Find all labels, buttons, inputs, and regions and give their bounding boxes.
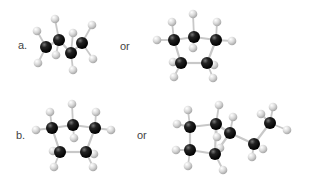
hydrogen-atom xyxy=(70,134,79,143)
label-or-a: or xyxy=(120,41,130,52)
hydrogen-atom xyxy=(209,74,218,83)
hydrogen-atom xyxy=(68,100,77,109)
molecule-diagram: a. or b. or xyxy=(0,0,317,188)
hydrogen-atom xyxy=(168,18,177,27)
carbon-atom xyxy=(175,57,187,69)
carbon-atom xyxy=(54,146,66,158)
hydrogen-atom xyxy=(219,166,228,175)
hydrogen-atom xyxy=(257,110,266,119)
hydrogen-atom xyxy=(33,27,42,36)
hydrogen-atom xyxy=(52,51,61,60)
hydrogen-atom xyxy=(173,120,182,129)
carbon-atom xyxy=(46,122,58,134)
hydrogen-atom xyxy=(51,15,60,24)
molecule-canvas xyxy=(0,0,317,188)
hydrogen-atom xyxy=(269,103,278,112)
hydrogen-atom xyxy=(184,106,193,115)
carbon-atom xyxy=(248,138,260,150)
hydrogen-atom xyxy=(229,113,238,122)
carbon-atom xyxy=(40,41,52,53)
hydrogen-atom xyxy=(69,29,78,38)
hydrogen-atom xyxy=(69,66,78,75)
hydrogen-atom xyxy=(189,44,198,53)
hydrogen-atom xyxy=(189,10,198,19)
carbon-atom xyxy=(184,121,196,133)
hydrogen-atom xyxy=(283,126,292,135)
hydrogen-atom xyxy=(172,146,181,155)
carbon-atom xyxy=(224,127,236,139)
carbon-atom xyxy=(53,34,65,46)
carbon-atom xyxy=(209,148,221,160)
label-b: b. xyxy=(16,130,25,141)
carbon-atom xyxy=(188,31,200,43)
hydrogen-atom xyxy=(259,145,268,154)
hydrogen-atom xyxy=(46,108,55,117)
hydrogen-atom xyxy=(213,133,222,142)
hydrogen-atom xyxy=(32,126,41,135)
hydrogen-atom xyxy=(92,108,101,117)
carbon-atom xyxy=(168,34,180,46)
carbon-atom xyxy=(80,146,92,158)
hydrogen-atom xyxy=(170,73,179,82)
hydrogen-atom xyxy=(248,153,257,162)
carbon-atom xyxy=(201,57,213,69)
hydrogen-atom xyxy=(153,36,162,45)
hydrogen-atom xyxy=(215,101,224,110)
hydrogen-atom xyxy=(228,37,237,46)
carbon-atom xyxy=(210,118,222,130)
label-or-b: or xyxy=(137,130,147,141)
hydrogen-atom xyxy=(34,59,43,68)
carbon-atom xyxy=(184,144,196,156)
hydrogen-atom xyxy=(213,18,222,27)
hydrogen-atom xyxy=(89,163,98,172)
carbon-atom xyxy=(76,37,88,49)
hydrogen-atom xyxy=(184,162,193,171)
hydrogen-atom xyxy=(107,126,116,135)
hydrogen-atom xyxy=(88,21,97,30)
carbon-atom xyxy=(65,47,77,59)
carbon-atom xyxy=(264,117,276,129)
carbon-atom xyxy=(210,34,222,46)
label-a: a. xyxy=(18,40,27,51)
hydrogen-atom xyxy=(89,55,98,64)
carbon-atom xyxy=(67,119,79,131)
hydrogen-atom xyxy=(50,163,59,172)
carbon-atom xyxy=(89,122,101,134)
atoms-layer xyxy=(32,10,292,175)
